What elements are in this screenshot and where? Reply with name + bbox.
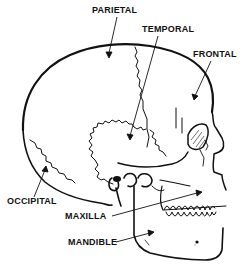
- zygomatic-line: [176, 108, 182, 133]
- label-mandible: MANDIBLE: [68, 237, 117, 247]
- upper-teeth: [164, 206, 226, 210]
- ear-canal: [113, 176, 121, 182]
- occipital-outline: [23, 130, 112, 205]
- label-occipital: OCCIPITAL: [7, 196, 57, 206]
- sphenoid-suture: [150, 130, 166, 156]
- nasal-detail: [200, 140, 208, 166]
- lambdoid-suture: [30, 140, 75, 183]
- zygomatic-lower: [160, 180, 190, 186]
- mental-foramen: [195, 240, 198, 243]
- label-maxilla: MAXILLA: [65, 211, 107, 221]
- mandible-outline: [134, 186, 223, 260]
- mandible-ramus: [161, 186, 163, 210]
- orbit: [188, 124, 208, 149]
- mastoid-process: [109, 178, 121, 206]
- label-temporal: TEMPORAL: [142, 24, 194, 34]
- face-profile: [212, 112, 226, 190]
- orbit-hatching: [191, 130, 205, 148]
- label-frontal: FRONTAL: [193, 49, 237, 59]
- squamosal-suture: [89, 120, 146, 160]
- skull-diagram: PARIETAL TEMPORAL FRONTAL OCCIPITAL MAXI…: [0, 0, 249, 271]
- lower-teeth: [166, 212, 216, 216]
- mandible-detail: [145, 240, 195, 245]
- zygomatic-arch: [118, 152, 188, 167]
- condyle: [124, 174, 152, 187]
- cranium-outline: [23, 44, 213, 130]
- label-parietal: PARIETAL: [92, 5, 138, 15]
- coronal-suture: [135, 47, 149, 147]
